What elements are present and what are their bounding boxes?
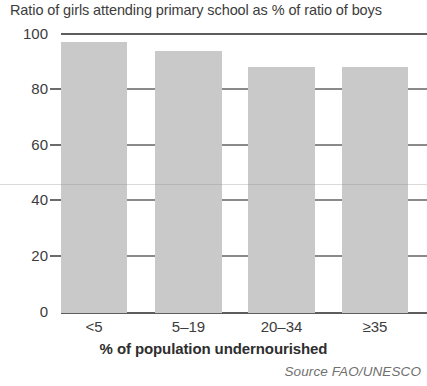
- y-tick-label-0: 0: [4, 304, 48, 319]
- x-axis-title: % of population undernourished: [0, 340, 427, 357]
- y-tick-mark-80: [50, 88, 61, 90]
- y-axis: 100 80 60 40 20 0: [0, 0, 48, 386]
- bar-5-19: [155, 51, 222, 313]
- y-tick-label-40: 40: [4, 192, 48, 207]
- y-tick-label-60: 60: [4, 137, 48, 152]
- plot-area: [61, 34, 413, 313]
- x-tick-label-lt5: <5: [61, 318, 127, 336]
- x-tick-label-5-19: 5–19: [155, 318, 222, 336]
- x-tick-label-20-34: 20–34: [248, 318, 315, 336]
- bar-20-34: [248, 67, 315, 313]
- y-tick-mark-60: [50, 144, 61, 146]
- bar-gte35: [342, 67, 408, 313]
- scan-artifact-line: [0, 184, 427, 185]
- y-tick-label-20: 20: [4, 248, 48, 263]
- source-note: Source FAO/UNESCO: [285, 364, 421, 379]
- y-tick-label-80: 80: [4, 81, 48, 96]
- bar-lt5: [61, 42, 127, 313]
- bar-chart-figure: Ratio of girls attending primary school …: [0, 0, 427, 386]
- x-tick-label-gte35: ≥35: [342, 318, 408, 336]
- y-tick-mark-20: [50, 255, 61, 257]
- y-tick-label-100: 100: [4, 26, 48, 41]
- chart-title: Ratio of girls attending primary school …: [10, 2, 425, 19]
- y-tick-mark-40: [50, 199, 61, 201]
